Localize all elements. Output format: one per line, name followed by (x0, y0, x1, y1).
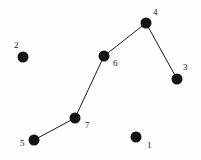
graph-svg (0, 0, 201, 160)
node-label-1: 1 (147, 141, 152, 150)
graph-edge-6-4 (104, 23, 146, 56)
graph-edge-5-7 (34, 118, 75, 140)
graph-node-1[interactable] (131, 132, 142, 143)
node-label-7: 7 (85, 121, 90, 130)
graph-node-2[interactable] (18, 52, 29, 63)
graph-edge-4-3 (146, 23, 177, 79)
graph-node-4[interactable] (141, 18, 152, 29)
graph-node-6[interactable] (99, 51, 110, 62)
diagram-canvas: 1234567 (0, 0, 201, 160)
edges-group (34, 23, 177, 140)
node-label-3: 3 (183, 63, 188, 72)
nodes-group (18, 18, 183, 146)
node-label-5: 5 (20, 139, 25, 148)
graph-node-3[interactable] (172, 74, 183, 85)
graph-node-5[interactable] (29, 135, 40, 146)
node-label-2: 2 (14, 41, 19, 50)
graph-node-7[interactable] (70, 113, 81, 124)
node-label-4: 4 (153, 8, 158, 17)
node-label-6: 6 (113, 59, 118, 68)
graph-edge-7-6 (75, 56, 104, 118)
